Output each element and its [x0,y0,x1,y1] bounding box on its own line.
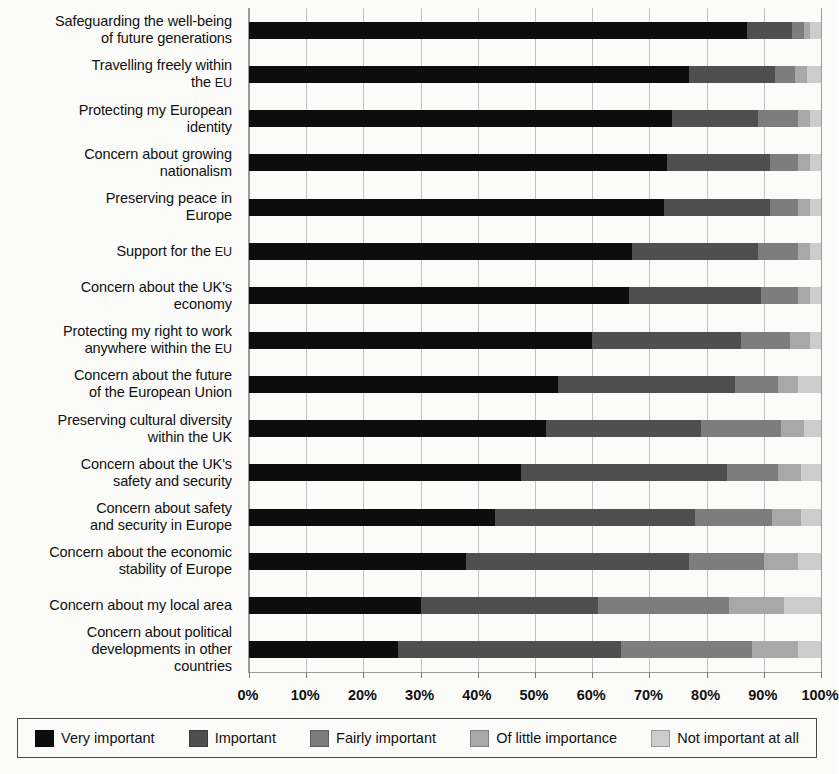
bar-segment[interactable] [495,509,695,526]
bar-row[interactable] [249,420,821,437]
bar-segment[interactable] [398,641,621,658]
bar-segment[interactable] [770,154,799,171]
bar-row[interactable] [249,332,821,349]
category-label-line: economy [0,296,232,313]
legend-item[interactable]: Of little importance [470,730,617,747]
bar-segment[interactable] [249,376,558,393]
category-label-line: the EU [0,74,232,92]
bar-segment[interactable] [798,199,809,216]
bar-segment[interactable] [249,154,667,171]
bar-segment[interactable] [770,199,799,216]
bar-segment[interactable] [249,66,689,83]
bar-segment[interactable] [798,553,821,570]
bar-segment[interactable] [249,553,466,570]
bar-row[interactable] [249,22,821,39]
bar-segment[interactable] [249,243,632,260]
bar-segment[interactable] [758,243,798,260]
bar-segment[interactable] [632,243,758,260]
legend-item[interactable]: Important [189,730,276,747]
bar-segment[interactable] [790,332,810,349]
plot-area [248,8,821,673]
bar-segment[interactable] [592,332,741,349]
bar-segment[interactable] [249,199,664,216]
bar-segment[interactable] [798,110,809,127]
bar-segment[interactable] [621,641,753,658]
bar-segment[interactable] [249,464,521,481]
bar-row[interactable] [249,66,821,83]
bar-segment[interactable] [781,420,804,437]
bar-segment[interactable] [558,376,735,393]
bar-segment[interactable] [421,597,598,614]
bar-segment[interactable] [249,641,398,658]
bar-segment[interactable] [629,287,761,304]
bar-segment[interactable] [761,287,798,304]
bar-segment[interactable] [664,199,770,216]
legend-item[interactable]: Fairly important [310,730,436,747]
bar-segment[interactable] [795,66,806,83]
category-label: Protecting my Europeanidentity [0,102,232,136]
bar-segment[interactable] [729,597,783,614]
bar-segment[interactable] [784,597,821,614]
bar-row[interactable] [249,376,821,393]
bar-segment[interactable] [667,154,770,171]
bar-segment[interactable] [701,420,781,437]
bar-segment[interactable] [672,110,758,127]
bar-segment[interactable] [778,464,801,481]
bar-segment[interactable] [798,287,809,304]
bar-segment[interactable] [249,22,747,39]
bar-segment[interactable] [546,420,700,437]
bar-row[interactable] [249,110,821,127]
bar-segment[interactable] [810,243,821,260]
bar-segment[interactable] [778,376,798,393]
bar-segment[interactable] [466,553,689,570]
category-label: Concern about politicaldevelopments in o… [0,624,232,675]
bar-row[interactable] [249,597,821,614]
bar-row[interactable] [249,287,821,304]
bar-row[interactable] [249,641,821,658]
bar-segment[interactable] [792,22,803,39]
bar-segment[interactable] [689,553,763,570]
bar-segment[interactable] [810,287,821,304]
bar-segment[interactable] [810,199,821,216]
bar-row[interactable] [249,199,821,216]
bar-segment[interactable] [741,332,790,349]
bar-segment[interactable] [758,110,798,127]
bar-segment[interactable] [249,420,546,437]
bar-segment[interactable] [689,66,775,83]
bar-segment[interactable] [801,509,821,526]
bar-segment[interactable] [521,464,727,481]
bar-segment[interactable] [695,509,772,526]
legend-item[interactable]: Not important at all [651,730,799,747]
bar-segment[interactable] [775,66,795,83]
bar-row[interactable] [249,154,821,171]
bar-segment[interactable] [735,376,778,393]
category-label-line: countries [0,658,232,675]
bar-segment[interactable] [798,641,821,658]
bar-segment[interactable] [764,553,798,570]
bar-segment[interactable] [810,154,821,171]
bar-segment[interactable] [249,287,629,304]
bar-segment[interactable] [727,464,778,481]
bar-segment[interactable] [752,641,798,658]
bar-row[interactable] [249,464,821,481]
bar-segment[interactable] [747,22,793,39]
bar-row[interactable] [249,243,821,260]
bar-segment[interactable] [249,332,592,349]
bar-segment[interactable] [810,22,821,39]
bar-segment[interactable] [810,110,821,127]
bar-segment[interactable] [798,376,821,393]
bar-segment[interactable] [798,154,809,171]
bar-segment[interactable] [804,420,821,437]
bar-row[interactable] [249,509,821,526]
bar-segment[interactable] [807,66,821,83]
bar-segment[interactable] [249,509,495,526]
bar-segment[interactable] [810,332,821,349]
legend-item[interactable]: Very important [35,730,155,747]
bar-segment[interactable] [798,243,809,260]
bar-segment[interactable] [801,464,821,481]
bar-row[interactable] [249,553,821,570]
bar-segment[interactable] [598,597,730,614]
bar-segment[interactable] [249,110,672,127]
bar-segment[interactable] [772,509,801,526]
bar-segment[interactable] [249,597,421,614]
